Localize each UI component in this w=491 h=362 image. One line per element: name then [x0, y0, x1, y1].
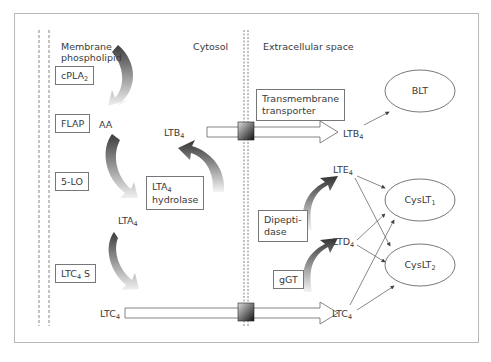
- lte4-label: LTE4: [333, 164, 353, 175]
- ltb4-transporter-square: [238, 122, 254, 140]
- cpla2-box: cPLA2: [55, 66, 94, 85]
- aa-label: AA: [99, 119, 112, 130]
- ltd4-label: LTD4: [333, 236, 354, 247]
- cytosol-label: Cytosol: [193, 41, 228, 52]
- membrane-phospholipid-label: Membranephospholipid: [61, 41, 122, 63]
- dipeptidase-box: Dipepti-dase: [258, 210, 308, 242]
- ltb4-extracellular-label: LTB4: [343, 128, 363, 139]
- cyslt1-label: CysLT1: [385, 194, 455, 205]
- ltc4-intracellular-label: LTC4: [100, 308, 120, 319]
- ltc4-synthase-box: LTC4 S: [55, 264, 96, 283]
- ltd4-to-cyslt1: [357, 214, 385, 240]
- lte4-to-cyslt1: [357, 176, 385, 188]
- ltc4-transporter-square: [238, 303, 254, 321]
- arrow-aa-to-lta4: [106, 134, 138, 198]
- blt-label: BLT: [385, 85, 455, 96]
- arrow-ltd4-to-lte4: [303, 176, 338, 230]
- ltc4-extracellular-label: LTC4: [332, 308, 352, 319]
- five-lo-box: 5-LO: [55, 172, 89, 191]
- ltb4-to-blt: [364, 112, 389, 125]
- flap-box: FLAP: [55, 114, 90, 133]
- ltb4-transport-arrow: [207, 121, 338, 143]
- arrow-lta4-to-ltc4: [109, 232, 139, 290]
- extracellular-space-label: Extracellular space: [263, 41, 354, 52]
- lta4-hydrolase-box: LTA4hydrolase: [146, 176, 204, 210]
- ltd4-to-cyslt2: [357, 245, 385, 262]
- ltb4-intracellular-label: LTB4: [164, 127, 184, 138]
- ltc4-to-cyslt2: [357, 286, 394, 310]
- transmembrane-transporter-box: Transmembranetransporter: [256, 89, 345, 121]
- lta4-label: LTA4: [118, 215, 138, 226]
- cyslt2-label: CysLT2: [385, 259, 455, 270]
- ltc4-transport-arrow: [125, 302, 338, 324]
- ggt-box: gGT: [273, 270, 304, 289]
